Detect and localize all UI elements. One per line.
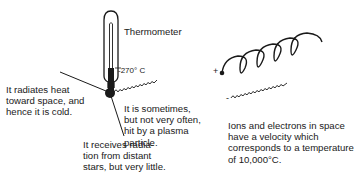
electron-path-icon: [231, 83, 287, 98]
ion-particle-dot: [220, 71, 225, 76]
negative-charge-marker: -: [226, 93, 229, 103]
ions-velocity-annotation: Ions and electrons in space have a veloc…: [228, 120, 354, 165]
receives-radiation-annotation: It receives radia- tion from distant sta…: [83, 139, 166, 173]
ion-helix-path-icon: [222, 33, 322, 73]
radiates-heat-annotation: It radiates heat toward space, and hence…: [6, 84, 84, 118]
thermometer-in-space-diagram: + - Thermometer -270° C It radiates heat…: [0, 0, 358, 183]
thermometer-icon: [104, 11, 121, 90]
cropped-caption-fragment: [200, 178, 358, 183]
plasma-particle-path-icon: [114, 80, 157, 92]
receives-pointer-line: [111, 96, 124, 136]
thermometer-bulb: [105, 88, 115, 98]
thermometer-label: Thermometer: [124, 26, 182, 37]
temperature-reading: -270° C: [118, 65, 145, 76]
positive-charge-marker: +: [213, 66, 218, 76]
